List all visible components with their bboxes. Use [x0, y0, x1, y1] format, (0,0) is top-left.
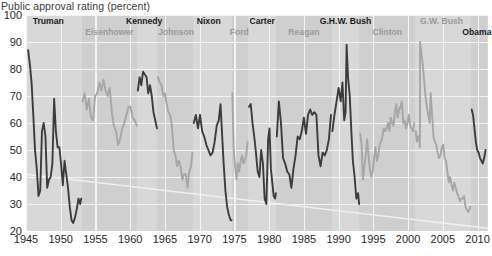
x-tick-label: 1995 [361, 234, 385, 245]
y-tick-label: 50 [0, 145, 22, 156]
y-tick-label: 90 [0, 37, 22, 48]
x-tick-label: 2005 [431, 234, 455, 245]
y-tick-label: 100 [0, 10, 22, 21]
president-label-g-w--bush: G.W. Bush [420, 17, 463, 26]
president-label-johnson: Johnson [158, 28, 194, 37]
y-tick-label: 70 [0, 91, 22, 102]
president-label-carter: Carter [250, 17, 275, 26]
x-tick-label: 1970 [187, 234, 211, 245]
x-tick-label: 1975 [222, 234, 246, 245]
x-tick-label: 1985 [292, 234, 316, 245]
x-tick-label: 2010 [465, 234, 489, 245]
president-label-g-h-w--bush: G.H.W. Bush [320, 17, 372, 26]
x-tick-label: 1990 [326, 234, 350, 245]
president-label-nixon: Nixon [197, 17, 221, 26]
y-tick-label: 30 [0, 199, 22, 210]
y-tick-label: 60 [0, 118, 22, 129]
x-tick-label: 1950 [48, 234, 72, 245]
x-tick-label: 1955 [83, 234, 107, 245]
y-axis: 2030405060708090100 [0, 0, 492, 256]
x-tick-label: 1965 [153, 234, 177, 245]
president-label-obama: Obama [462, 28, 491, 37]
y-tick-label: 40 [0, 172, 22, 183]
president-label-eisenhower: Eisenhower [85, 28, 133, 37]
x-tick-label: 1945 [14, 234, 38, 245]
x-tick-label: 2000 [396, 234, 420, 245]
president-label-reagan: Reagan [288, 28, 319, 37]
president-label-truman: Truman [33, 17, 64, 26]
x-tick-label: 1960 [118, 234, 142, 245]
president-label-kennedy: Kennedy [126, 17, 162, 26]
president-label-clinton: Clinton [372, 28, 402, 37]
approval-rating-chart: Public approval rating (percent) 2030405… [0, 0, 492, 256]
president-label-ford: Ford [230, 28, 249, 37]
x-tick-label: 1980 [257, 234, 281, 245]
y-tick-label: 80 [0, 64, 22, 75]
